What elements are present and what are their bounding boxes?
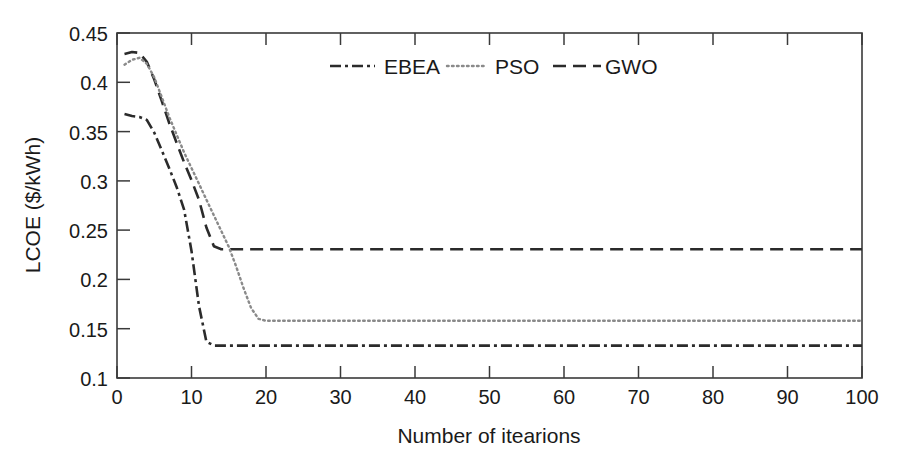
series-group [125, 52, 863, 346]
y-tick-label: 0.3 [80, 171, 108, 193]
legend-label-ebea: EBEA [384, 55, 440, 78]
x-tick-label: 90 [776, 386, 798, 408]
x-tick-label: 10 [180, 386, 202, 408]
x-tick-label: 60 [553, 386, 575, 408]
y-tick-label: 0.45 [69, 23, 108, 45]
x-tick-label: 80 [702, 386, 724, 408]
series-line-gwo [125, 52, 863, 249]
x-axis-ticks [117, 33, 862, 378]
plot-frame [117, 33, 862, 378]
y-tick-label: 0.15 [69, 319, 108, 341]
legend-label-gwo: GWO [605, 55, 658, 78]
x-tick-label: 0 [111, 386, 122, 408]
y-tick-label: 0.25 [69, 220, 108, 242]
lcoe-convergence-chart: 0.45 0.4 0.35 0.3 0.25 0.2 0.15 0.1 0 10… [0, 0, 916, 458]
x-tick-labels: 0 10 20 30 40 50 60 70 80 90 100 [111, 386, 878, 408]
series-line-ebea [125, 114, 863, 346]
legend-label-pso: PSO [495, 55, 539, 78]
x-tick-label: 70 [627, 386, 649, 408]
y-axis-ticks [117, 33, 130, 378]
chart-legend: EBEA PSO GWO [330, 55, 658, 78]
x-tick-label: 100 [845, 386, 878, 408]
y-tick-label: 0.4 [80, 72, 108, 94]
y-axis-title: LCOE ($/kWh) [21, 137, 44, 274]
x-axis-title: Number of itearions [397, 424, 580, 447]
x-tick-label: 30 [329, 386, 351, 408]
x-tick-label: 50 [478, 386, 500, 408]
y-tick-label: 0.35 [69, 122, 108, 144]
series-line-pso [125, 58, 863, 321]
y-tick-label: 0.1 [80, 368, 108, 390]
y-tick-labels: 0.45 0.4 0.35 0.3 0.25 0.2 0.15 0.1 [69, 23, 108, 390]
x-tick-label: 20 [255, 386, 277, 408]
x-tick-label: 40 [404, 386, 426, 408]
chart-figure: 0.45 0.4 0.35 0.3 0.25 0.2 0.15 0.1 0 10… [0, 0, 916, 458]
y-tick-label: 0.2 [80, 269, 108, 291]
